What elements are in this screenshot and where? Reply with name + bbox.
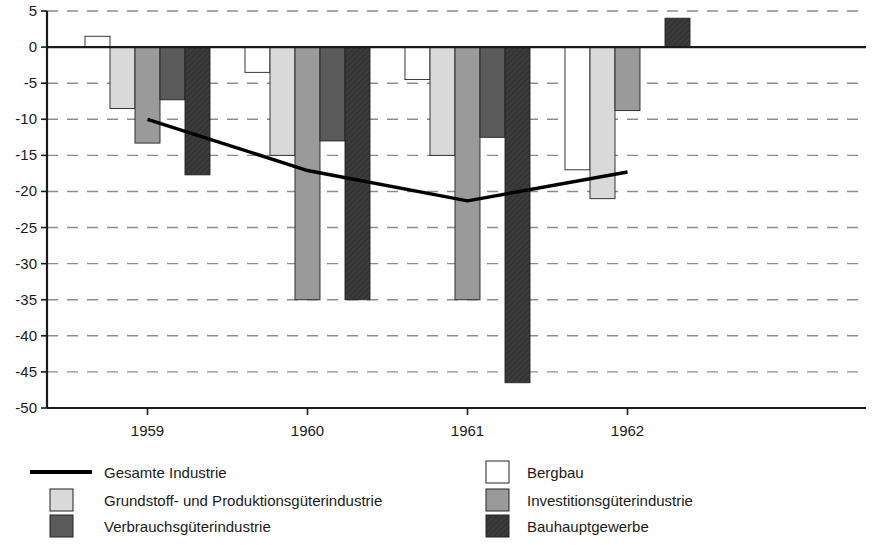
bar	[135, 47, 160, 143]
bar	[455, 47, 480, 300]
bar	[615, 47, 640, 111]
bar	[110, 47, 135, 108]
y-tick-label: -40	[15, 327, 37, 344]
y-tick-label: -10	[15, 110, 37, 127]
x-axis-label: 1959	[131, 422, 164, 439]
y-tick-label: 5	[29, 2, 37, 19]
y-tick-label: -50	[15, 399, 37, 416]
bar	[565, 47, 590, 170]
x-axis-label: 1961	[451, 422, 484, 439]
bar	[505, 47, 530, 383]
legend-swatch-box	[50, 489, 73, 511]
bar	[185, 47, 210, 175]
bar	[245, 47, 270, 72]
legend-label: Bauhauptgewerbe	[527, 518, 649, 535]
legend-swatch-box	[486, 461, 509, 483]
bar	[430, 47, 455, 155]
y-tick-label: -30	[15, 255, 37, 272]
bar	[665, 18, 690, 47]
y-tick-label: -25	[15, 219, 37, 236]
y-tick-label: -15	[15, 146, 37, 163]
legend-label: Verbrauchsgüterindustrie	[104, 518, 271, 535]
legend-swatch-box	[486, 489, 509, 511]
x-axis-label: 1960	[291, 422, 324, 439]
legend-label: Bergbau	[527, 464, 584, 481]
bar	[160, 47, 185, 100]
bar	[320, 47, 345, 141]
bar	[480, 47, 505, 137]
legend-label: Investitionsgüterindustrie	[527, 492, 693, 509]
x-axis-label: 1962	[611, 422, 644, 439]
legend-label: Gesamte Industrie	[104, 464, 227, 481]
chart-container: 50-5-10-15-20-25-30-35-40-45-50 19591960…	[0, 0, 876, 545]
y-tick-label: -5	[24, 74, 37, 91]
y-tick-label: -45	[15, 363, 37, 380]
y-tick-label: 0	[29, 38, 37, 55]
bar	[270, 47, 295, 155]
bar	[345, 47, 370, 300]
bar	[85, 36, 110, 47]
legend-swatch-box	[50, 515, 73, 537]
y-tick-label: -20	[15, 182, 37, 199]
y-tick-label: -35	[15, 291, 37, 308]
bar	[405, 47, 430, 79]
bar-chart: 50-5-10-15-20-25-30-35-40-45-50 19591960…	[0, 0, 876, 545]
legend-swatch-box	[486, 515, 509, 537]
legend-label: Grundstoff- und Produktionsgüterindustri…	[104, 492, 382, 509]
